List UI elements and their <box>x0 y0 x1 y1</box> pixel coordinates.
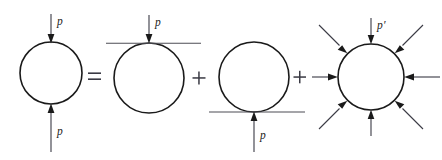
term-4-group <box>312 18 440 136</box>
term-1-momentum-label-top: p <box>57 16 63 28</box>
term-3-loop-circle <box>219 42 289 112</box>
term-1-bottom-arrow <box>48 104 55 153</box>
term-1-momentum-label-bottom: p <box>57 126 63 138</box>
term-4-arrow-upper-right <box>395 25 423 53</box>
plus-operator-2-glyph <box>294 71 307 84</box>
term-3-momentum-label-bottom: p <box>260 130 266 142</box>
term-4-arrow-upper-left <box>319 25 347 53</box>
term-4-momentum-label-top-primed: p′ <box>377 20 386 32</box>
term-4-loop-circle <box>338 44 404 110</box>
plus-operator-1-glyph <box>193 72 206 85</box>
figure-canvas: p p p p p′ <box>0 0 442 160</box>
term-1-top-arrow <box>48 14 55 44</box>
equals-operator-glyph <box>88 72 101 80</box>
term-4-arrow-lower-right <box>395 101 423 129</box>
term-2-loop-circle <box>114 43 184 113</box>
term-4-arrow-left <box>312 74 338 81</box>
prime-mark: ′ <box>383 19 386 31</box>
term-1-loop-circle <box>20 42 82 104</box>
term-2-top-arrow <box>146 15 153 44</box>
term-4-arrow-bottom <box>368 110 375 136</box>
term-2-group <box>106 15 201 113</box>
term-1-group <box>20 14 82 152</box>
term-4-arrow-top <box>368 18 375 44</box>
term-4-arrow-lower-left <box>319 101 347 129</box>
term-4-arrow-right <box>404 74 440 81</box>
term-2-momentum-label-top: p <box>155 17 161 29</box>
diagram-svg <box>0 0 442 160</box>
term-3-group <box>209 42 305 152</box>
term-3-bottom-arrow <box>251 112 258 153</box>
